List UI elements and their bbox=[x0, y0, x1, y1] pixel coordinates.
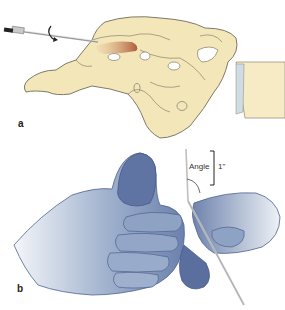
angle-label: Angle bbox=[189, 162, 209, 171]
panel-label-a: a bbox=[18, 118, 24, 129]
figure-panel-a: a bbox=[0, 0, 285, 150]
figure-panel-b: Angle 1" b bbox=[0, 145, 285, 310]
sacrum-illustration bbox=[0, 0, 285, 150]
hands-illustration bbox=[0, 145, 285, 310]
panel-label-b: b bbox=[17, 283, 23, 294]
measurement-label: 1" bbox=[218, 162, 225, 171]
